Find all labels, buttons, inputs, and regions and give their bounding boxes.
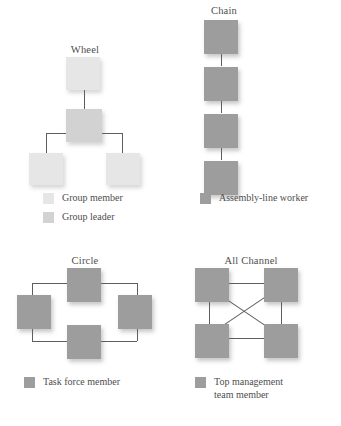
chain-node-3 xyxy=(204,114,238,148)
panel-circle: Circle Task force member xyxy=(0,213,170,426)
legend-swatch-task-force-member xyxy=(24,377,35,388)
panel-title-allchannel: All Channel xyxy=(166,255,336,266)
allchannel-edge-left xyxy=(209,288,210,338)
circle-node-right xyxy=(118,295,152,329)
chain-edge-3-4 xyxy=(221,148,222,160)
circle-edge-top xyxy=(32,283,137,284)
legend-item: Top management team member xyxy=(195,376,341,401)
circle-edge-bottom xyxy=(32,341,137,342)
chain-diagram xyxy=(171,0,341,213)
allchannel-edge-diagonal-tr-bl xyxy=(204,288,278,338)
wheel-edge-to-bottom-left xyxy=(46,133,47,155)
wheel-node-leader xyxy=(66,109,102,142)
wheel-edge-top-to-leader xyxy=(84,89,85,110)
legend-label-task-force-member: Task force member xyxy=(43,376,120,389)
chain-node-1 xyxy=(204,20,238,54)
chain-edge-1-2 xyxy=(221,54,222,66)
panel-title-circle: Circle xyxy=(0,255,170,266)
legend-item: Assembly-line worker xyxy=(200,192,341,205)
panel-wheel: Wheel Group member Group leader xyxy=(0,0,170,213)
legend-swatch-top-management-team-member xyxy=(195,377,206,388)
wheel-node-bottom-left-member xyxy=(29,153,63,185)
legend-label-group-member: Group member xyxy=(62,192,123,205)
allchannel-edge-top xyxy=(216,283,273,284)
panel-title-wheel: Wheel xyxy=(0,44,170,55)
allchannel-edge-diagonal-tl-br xyxy=(211,289,285,339)
circle-edge-left xyxy=(32,283,33,341)
panel-title-chain: Chain xyxy=(139,5,309,16)
circle-edge-right xyxy=(137,283,138,341)
allchannel-node-bottom-right xyxy=(264,324,298,358)
wheel-edge-bus xyxy=(46,133,123,134)
allchannel-edge-right xyxy=(281,288,282,338)
legend-swatch-group-member xyxy=(43,193,54,204)
chain-node-4 xyxy=(204,161,238,195)
legend-allchannel: Top management team member xyxy=(171,376,341,407)
chain-node-2 xyxy=(204,67,238,101)
circle-node-left xyxy=(17,295,51,329)
panel-chain: Chain Assembly-line worker xyxy=(171,0,341,213)
legend-circle: Task force member xyxy=(0,376,194,395)
wheel-node-top-member xyxy=(66,57,100,90)
circle-node-bottom xyxy=(67,325,101,359)
allchannel-node-top-left xyxy=(195,268,229,302)
wheel-diagram xyxy=(0,0,170,213)
wheel-node-bottom-right-member xyxy=(106,153,140,185)
legend-chain: Assembly-line worker xyxy=(171,192,341,211)
wheel-edge-to-bottom-right xyxy=(122,133,123,155)
legend-item: Task force member xyxy=(24,376,194,389)
legend-swatch-assembly-line-worker xyxy=(200,193,211,204)
allchannel-node-top-right xyxy=(264,268,298,302)
chain-edge-2-3 xyxy=(221,101,222,113)
legend-label-assembly-line-worker: Assembly-line worker xyxy=(219,192,308,205)
circle-node-top xyxy=(67,268,101,302)
legend-label-top-management-team-member: Top management team member xyxy=(214,376,283,401)
allchannel-node-bottom-left xyxy=(195,324,229,358)
allchannel-edge-bottom xyxy=(216,338,273,339)
panel-allchannel: All Channel Top management team member xyxy=(171,213,341,426)
